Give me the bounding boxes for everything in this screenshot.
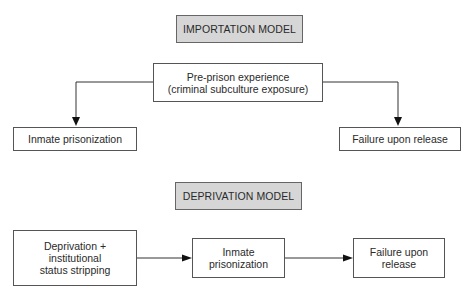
arrow-to-inmate-prisonization bbox=[76, 82, 153, 118]
arrowhead-icon bbox=[182, 255, 192, 262]
deprivation-step3-box: Failure upon release bbox=[353, 238, 445, 278]
importation-title-text: IMPORTATION MODEL bbox=[183, 23, 296, 35]
step2-line1: Inmate bbox=[222, 246, 254, 258]
arrowhead-icon bbox=[343, 255, 353, 262]
failure-upon-release-box: Failure upon release bbox=[339, 127, 461, 151]
step1-line3: status stripping bbox=[40, 264, 111, 276]
inmate-prisonization-text: Inmate prisonization bbox=[28, 133, 122, 145]
arrowhead-icon bbox=[72, 117, 80, 126]
arrow-to-failure-upon-release bbox=[323, 82, 398, 118]
pre-prison-line1: Pre-prison experience bbox=[187, 71, 290, 83]
arrowhead-icon bbox=[394, 117, 402, 126]
step1-line2: institutional bbox=[49, 252, 102, 264]
importation-model-title: IMPORTATION MODEL bbox=[176, 15, 303, 43]
deprivation-step1-box: Deprivation + institutional status strip… bbox=[13, 230, 137, 286]
step3-line1: Failure upon bbox=[370, 246, 428, 258]
step1-line1: Deprivation + bbox=[44, 240, 106, 252]
deprivation-model-title: DEPRIVATION MODEL bbox=[175, 182, 302, 210]
step2-line2: prisonization bbox=[209, 258, 268, 270]
step3-line2: release bbox=[382, 258, 416, 270]
deprivation-title-text: DEPRIVATION MODEL bbox=[183, 190, 295, 202]
failure-upon-release-text: Failure upon release bbox=[352, 133, 448, 145]
inmate-prisonization-box: Inmate prisonization bbox=[13, 127, 137, 151]
deprivation-step2-box: Inmate prisonization bbox=[192, 238, 285, 278]
pre-prison-line2: (criminal subculture exposure) bbox=[168, 83, 309, 95]
pre-prison-experience-box: Pre-prison experience (criminal subcultu… bbox=[153, 63, 323, 102]
